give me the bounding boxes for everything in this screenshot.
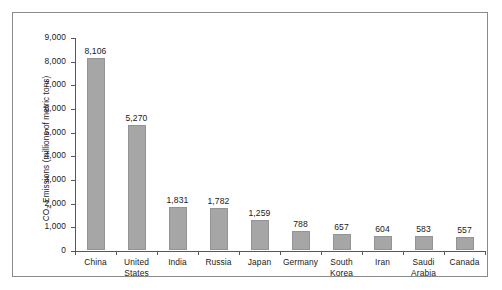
bar-value-label: 557 (442, 225, 488, 235)
x-axis-tick-mark (198, 251, 199, 255)
bar-chart: CO2 Emissions (millions of metric tons) … (13, 13, 487, 276)
y-axis-tick-mark (71, 204, 75, 205)
bar (128, 125, 146, 250)
y-axis-tick-label: 6,000 (45, 103, 66, 113)
bar-value-label: 8,106 (73, 46, 119, 56)
bar (292, 231, 310, 250)
x-axis-tick-mark (239, 251, 240, 255)
y-axis-tick-label: 1,000 (45, 221, 66, 231)
bar (87, 58, 105, 250)
chart-frame: CO2 Emissions (millions of metric tons) … (12, 12, 488, 277)
x-axis-tick-mark (75, 251, 76, 255)
x-axis-tick-mark (116, 251, 117, 255)
bar-value-label: 1,782 (196, 196, 242, 206)
bar-value-label: 1,259 (237, 208, 283, 218)
y-axis-title-prefix: CO (42, 209, 51, 221)
bar-value-label: 5,270 (114, 113, 160, 123)
bar (456, 237, 474, 250)
x-axis-category-label: Canada (439, 257, 491, 268)
y-axis-tick-mark (71, 180, 75, 181)
bar-value-label: 788 (278, 219, 324, 229)
bar (415, 236, 433, 250)
y-axis-line (75, 38, 76, 252)
bar (251, 220, 269, 250)
y-axis-title-suffix: Emissions (millions of metric tons) (42, 76, 51, 206)
y-axis-tick-label: 3,000 (45, 174, 66, 184)
y-axis-tick-label: 4,000 (45, 150, 66, 160)
bar (210, 208, 228, 250)
y-axis-tick-mark (71, 133, 75, 134)
y-axis-tick-mark (71, 227, 75, 228)
y-axis-tick-mark (71, 156, 75, 157)
x-axis-category-line: Canada (439, 257, 491, 268)
y-axis-tick-mark (71, 38, 75, 39)
bar (333, 234, 351, 250)
y-axis-tick-label: 7,000 (45, 79, 66, 89)
x-axis-tick-mark (444, 251, 445, 255)
bar-value-label: 583 (401, 224, 447, 234)
y-axis-tick-label: 5,000 (45, 127, 66, 137)
y-axis-tick-mark (71, 109, 75, 110)
x-axis-tick-mark (485, 251, 486, 255)
bar (169, 207, 187, 250)
x-axis-category-line: Korea (316, 268, 368, 279)
x-axis-category-line: Arabia (398, 268, 450, 279)
x-axis-tick-mark (321, 251, 322, 255)
bar (374, 236, 392, 250)
y-axis-tick-label: 8,000 (45, 56, 66, 66)
y-axis-tick-mark (71, 85, 75, 86)
x-axis-tick-mark (403, 251, 404, 255)
y-axis-tick-label: 9,000 (45, 32, 66, 42)
bar-value-label: 604 (360, 224, 406, 234)
y-axis-tick-label: 0 (61, 245, 66, 255)
y-axis-tick-label: 2,000 (45, 198, 66, 208)
bar-value-label: 657 (319, 222, 365, 232)
x-axis-tick-mark (280, 251, 281, 255)
y-axis-tick-mark (71, 62, 75, 63)
x-axis-category-line: States (111, 268, 163, 279)
bar-value-label: 1,831 (155, 195, 201, 205)
x-axis-tick-mark (157, 251, 158, 255)
x-axis-tick-mark (362, 251, 363, 255)
